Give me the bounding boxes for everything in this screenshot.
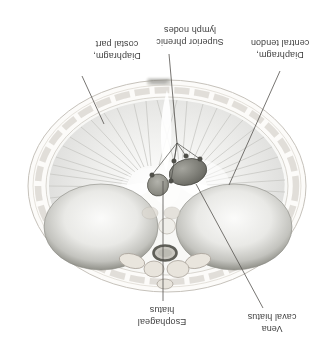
diagram-canvas: Diaphragm, costal part Superior phrenic … bbox=[0, 0, 332, 348]
label-diaphragm-central-tendon: Diaphragm, central tendon bbox=[246, 37, 314, 61]
lymph-node-dot bbox=[150, 173, 155, 178]
lymph-node-dot bbox=[198, 157, 203, 162]
label-diaphragm-costal-part: Diaphragm, costal part bbox=[83, 38, 151, 62]
label-superior-phrenic-lymph-nodes: Superior phrenic lymph nodes bbox=[146, 24, 234, 48]
lymph-node-dot bbox=[184, 154, 189, 159]
label-esophageal-hiatus: Esophageal hiatus bbox=[129, 304, 195, 328]
watermark-stamp bbox=[147, 78, 171, 85]
aorta-shape bbox=[159, 218, 176, 234]
lymph-node-dot bbox=[169, 179, 174, 184]
lymph-node-dot bbox=[172, 159, 177, 164]
label-vena-caval-hiatus: Vena caval hiatus bbox=[240, 311, 304, 335]
